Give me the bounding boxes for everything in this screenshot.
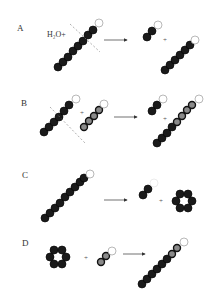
chain-c-reactant [41, 170, 94, 222]
panel-a: + [54, 19, 199, 74]
ring-c [172, 190, 196, 212]
panel-c: + [41, 170, 196, 222]
panel-d: + [46, 238, 188, 288]
svg-text:+: + [80, 109, 84, 117]
dimer-c [139, 179, 158, 199]
chain-a-reactant [54, 19, 103, 71]
svg-text:+: + [163, 115, 167, 123]
chain-b-reactant [40, 95, 80, 136]
reaction-diagram: + + + [0, 0, 215, 303]
panel-b: + + [40, 95, 203, 147]
dimer-d [98, 247, 117, 266]
svg-text:+: + [163, 36, 167, 44]
ring-d [46, 246, 70, 268]
svg-text:+: + [159, 197, 163, 205]
dimer-a [143, 21, 162, 41]
dimer-b [148, 95, 167, 115]
gray-chain-b [81, 100, 109, 131]
product-chain-d [138, 238, 188, 288]
svg-text:+: + [84, 254, 88, 262]
